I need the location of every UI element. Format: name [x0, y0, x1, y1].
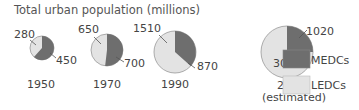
label-1970-medc: 700 — [124, 57, 145, 70]
label-1950-ledc: 280 — [14, 28, 35, 41]
label-1990-medc: 870 — [197, 60, 218, 73]
label-1990-year: 1990 — [161, 78, 189, 91]
pie-1990: 1510 870 1990 — [133, 22, 218, 91]
pie-1950: 280 450 1950 — [14, 28, 77, 91]
label-1970-ledc: 650 — [78, 23, 99, 36]
label-1990-ledc: 1510 — [133, 22, 161, 35]
pie-charts: 280 450 1950 650 700 1970 1510 870 1990 … — [0, 0, 359, 110]
legend-swatch-ledcs — [283, 76, 310, 94]
label-1970-year: 1970 — [93, 78, 121, 91]
legend-label-medcs: MEDCs — [311, 54, 349, 67]
label-2010-medc: 1020 — [306, 25, 334, 38]
legend-swatch-medcs — [283, 50, 310, 68]
label-1950-year: 1950 — [27, 78, 55, 91]
legend-label-ledcs: LEDCs — [311, 79, 346, 92]
label-1950-medc: 450 — [56, 54, 77, 67]
